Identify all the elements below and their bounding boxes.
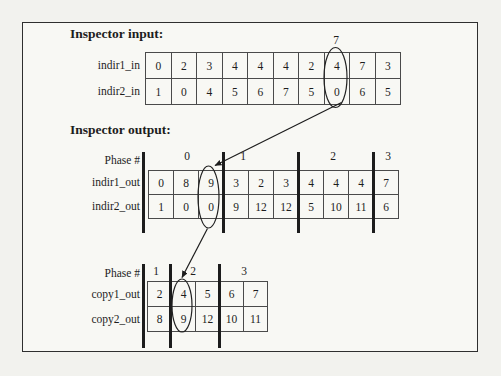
table-cell: 8 [174,171,199,195]
table-cell-highlighted: 9 [199,171,224,195]
table-row: 0 2 3 4 4 4 2 4 7 3 [146,53,401,79]
table-cell: 11 [244,307,268,332]
table-cell: 3 [197,53,223,79]
table-cell: 4 [197,79,223,105]
inspector-input-heading: Inspector input: [70,26,163,42]
table-cell: 4 [248,53,274,79]
row-label-copy2-out: copy2_out [91,312,140,326]
table-cell-highlighted: 0 [199,195,224,219]
table-cell: 5 [196,282,220,307]
table-cell: 5 [299,79,325,105]
table-cell: 2 [299,53,325,79]
table-cell: 0 [172,79,198,105]
table-cell: 0 [174,195,199,219]
table-cell: 7 [350,53,376,79]
phase-divider-bar [142,264,145,348]
pointer-index-label: 7 [333,33,339,47]
table-cell: 5 [376,79,402,105]
table-cell: 3 [224,171,249,195]
table-row: 2 4 5 6 7 [148,282,268,307]
phase-header-output: Phase # [105,153,140,167]
table-cell: 2 [172,53,198,79]
phase-number: 3 [385,149,391,163]
table-cell: 0 [146,53,172,79]
table-cell: 5 [223,79,249,105]
phase-divider-bar [297,152,300,233]
table-cell: 0 [149,171,174,195]
phase-divider-bar [218,264,221,348]
table-cell: 9 [224,195,249,219]
phase-divider-bar [169,264,172,348]
table-cell-highlighted: 9 [172,307,196,332]
table-cell: 1 [149,195,174,219]
table-cell: 6 [220,282,244,307]
phase-number: 2 [190,264,196,278]
phase-divider-bar [372,152,375,233]
table-cell: 12 [249,195,274,219]
copy-table: 2 4 5 6 7 8 9 12 10 11 [147,281,268,332]
row-label-indir1-in: indir1_in [98,58,140,72]
table-row: 0 8 9 3 2 3 4 4 4 7 [149,171,399,195]
table-cell: 3 [274,171,299,195]
input-table: 0 2 3 4 4 4 2 4 7 3 1 0 4 5 6 7 5 0 6 5 [145,52,401,105]
row-label-indir2-out: indir2_out [92,199,140,213]
table-cell: 4 [349,171,374,195]
table-cell-highlighted: 4 [325,53,351,79]
table-cell: 6 [350,79,376,105]
phase-number: 3 [241,264,247,278]
table-cell: 3 [376,53,402,79]
row-label-indir2-in: indir2_in [98,84,140,98]
phase-number: 1 [153,264,159,278]
table-cell-highlighted: 4 [172,282,196,307]
table-cell: 7 [274,79,300,105]
phase-divider-bar [222,152,225,233]
table-cell: 4 [274,53,300,79]
table-cell: 7 [374,171,399,195]
table-row: 1 0 4 5 6 7 5 0 6 5 [146,79,401,105]
table-cell: 10 [220,307,244,332]
figure-canvas: Inspector input: Inspector output: 7 ind… [0,0,501,376]
table-cell: 12 [196,307,220,332]
table-cell: 5 [299,195,324,219]
table-cell: 10 [324,195,349,219]
table-cell-highlighted: 0 [325,79,351,105]
table-cell: 12 [274,195,299,219]
phase-header-copy: Phase # [105,266,140,280]
table-row: 1 0 0 9 12 12 5 10 11 6 [149,195,399,219]
table-cell: 2 [249,171,274,195]
row-label-copy1-out: copy1_out [91,287,140,301]
table-cell: 4 [324,171,349,195]
table-row: 8 9 12 10 11 [148,307,268,332]
table-cell: 4 [299,171,324,195]
table-cell: 11 [349,195,374,219]
table-cell: 6 [248,79,274,105]
table-cell: 4 [223,53,249,79]
table-cell: 7 [244,282,268,307]
phase-number: 2 [330,149,336,163]
table-cell: 1 [146,79,172,105]
phase-number: 1 [240,149,246,163]
inspector-output-heading: Inspector output: [70,122,171,138]
output-table: 0 8 9 3 2 3 4 4 4 7 1 0 0 9 12 12 5 10 1… [148,170,399,219]
phase-number: 0 [184,149,190,163]
row-label-indir1-out: indir1_out [92,175,140,189]
phase-divider-bar [142,152,145,233]
table-cell: 6 [374,195,399,219]
